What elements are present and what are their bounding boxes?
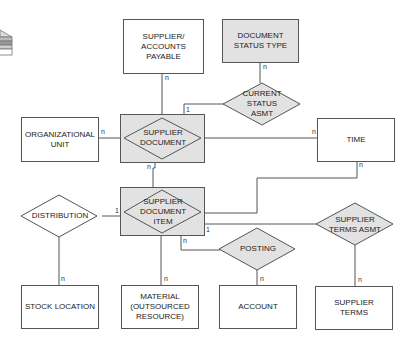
rel-label: CURRENT bbox=[242, 89, 281, 99]
cardinality-distribution: 1 bbox=[115, 207, 119, 214]
cardinality-supplier-ap: n bbox=[165, 74, 169, 81]
rel-label: SUPPLIER bbox=[329, 215, 381, 225]
entity-label: PAYABLE bbox=[141, 52, 186, 62]
entity-label: SUPPLIER/ bbox=[141, 32, 186, 42]
entity-supplier-accounts-payable: SUPPLIER/ ACCOUNTS PAYABLE bbox=[123, 19, 204, 74]
rel-label: DISTRIBUTION bbox=[32, 211, 88, 221]
entity-material: MATERIAL (OUTSOURCED RESOURCE) bbox=[121, 285, 199, 329]
cardinality-supplier-terms-asmt: 1 bbox=[206, 226, 210, 233]
cardinality-posting: n bbox=[183, 237, 187, 244]
cardinality-current-status: 1 bbox=[186, 106, 190, 113]
cardinality-time: n bbox=[312, 128, 316, 135]
distribution-label: DISTRIBUTION bbox=[22, 210, 98, 222]
cardinality-account: n bbox=[260, 275, 264, 282]
current-status-asmt-label: CURRENT STATUS ASMT bbox=[224, 89, 300, 119]
supplier-document-item-label: SUPPLIER DOCUMENT ITEM bbox=[124, 196, 202, 228]
cardinality-supplier-terms: n bbox=[358, 276, 362, 283]
cardinality-supplier-document: n bbox=[147, 163, 151, 170]
entity-label: TIME bbox=[346, 135, 365, 145]
entity-account: ACCOUNT bbox=[219, 285, 297, 329]
cardinality-material: n bbox=[164, 275, 168, 282]
entity-label: ORGANIZATIONAL bbox=[25, 130, 95, 140]
posting-label: POSTING bbox=[220, 243, 296, 255]
assoc-label: SUPPLIER bbox=[140, 197, 186, 207]
assoc-label: ITEM bbox=[140, 217, 186, 227]
entity-label: ACCOUNT bbox=[238, 302, 278, 312]
entity-label: RESOURCE) bbox=[130, 312, 190, 322]
entity-label: UNIT bbox=[25, 140, 95, 150]
er-diagram: SUPPLIER/ ACCOUNTS PAYABLE DOCUMENT STAT… bbox=[0, 0, 408, 340]
entity-label: DOCUMENT bbox=[234, 31, 287, 41]
entity-supplier-terms: SUPPLIER TERMS bbox=[315, 286, 393, 330]
cardinality-stock-location: n bbox=[61, 275, 65, 282]
entity-label: MATERIAL bbox=[130, 292, 190, 302]
entity-stock-location: STOCK LOCATION bbox=[21, 285, 99, 329]
cardinality-org-unit: n bbox=[101, 128, 105, 135]
entity-label: TERMS bbox=[334, 308, 374, 318]
assoc-label: DOCUMENT bbox=[140, 138, 186, 148]
entity-organizational-unit: ORGANIZATIONAL UNIT bbox=[21, 117, 99, 162]
supplier-terms-asmt-label: SUPPLIER TERMS ASMT bbox=[317, 214, 393, 236]
entity-label: ACCOUNTS bbox=[141, 42, 186, 52]
assoc-label: SUPPLIER bbox=[140, 128, 186, 138]
rel-label: TERMS ASMT bbox=[329, 225, 381, 235]
entity-label: SUPPLIER bbox=[334, 298, 374, 308]
entity-label: STOCK LOCATION bbox=[25, 302, 95, 312]
rel-label: ASMT bbox=[242, 109, 281, 119]
assoc-label: DOCUMENT bbox=[140, 207, 186, 217]
cardinality-doc-status-type: n bbox=[263, 63, 267, 70]
database-stack-icon bbox=[0, 30, 12, 55]
entity-label: STATUS TYPE bbox=[234, 41, 287, 51]
rel-label: STATUS bbox=[242, 99, 281, 109]
entity-label: (OUTSOURCED bbox=[130, 302, 190, 312]
entity-time: TIME bbox=[317, 118, 395, 162]
cardinality-time-item: n bbox=[359, 161, 363, 168]
entity-document-status-type: DOCUMENT STATUS TYPE bbox=[222, 19, 299, 63]
supplier-document-label: SUPPLIER DOCUMENT bbox=[124, 124, 202, 152]
rel-label: POSTING bbox=[240, 244, 276, 254]
